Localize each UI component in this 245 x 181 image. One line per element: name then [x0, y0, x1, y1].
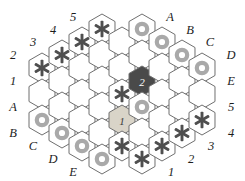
- edge-label-top-right: A: [165, 10, 174, 24]
- edge-label-top-right: C: [206, 35, 215, 49]
- edge-label-bottom-left: C: [29, 139, 38, 153]
- edge-label-top-left: 2: [10, 48, 16, 62]
- edge-label-left: A: [8, 100, 17, 114]
- edge-label-right: E: [226, 74, 235, 88]
- edge-label-right: 4: [228, 126, 234, 140]
- numbered-piece-label: 2: [139, 76, 145, 88]
- hex-board-svg: 12 2345ABCD1ABE54CDE321: [0, 0, 245, 181]
- edge-label-bottom-right: 2: [188, 152, 194, 166]
- edge-label-top-right: D: [225, 48, 235, 62]
- edge-label-bottom-right: 3: [207, 139, 214, 153]
- edge-label-left: B: [9, 126, 17, 140]
- edge-label-top-left: 4: [50, 23, 56, 37]
- edge-label-bottom-left: D: [47, 152, 57, 166]
- edge-label-top-left: 3: [29, 35, 36, 49]
- edge-label-left: 1: [10, 74, 16, 88]
- numbered-piece-label: 1: [119, 115, 125, 127]
- edge-label-bottom-right: 1: [168, 165, 174, 179]
- edge-label-bottom-left: E: [68, 165, 77, 179]
- edge-label-right: 5: [228, 100, 234, 114]
- edge-label-top-right: B: [186, 23, 194, 37]
- edge-label-top-left: 5: [70, 10, 76, 24]
- hex-board-figure: 12 2345ABCD1ABE54CDE321: [0, 0, 245, 181]
